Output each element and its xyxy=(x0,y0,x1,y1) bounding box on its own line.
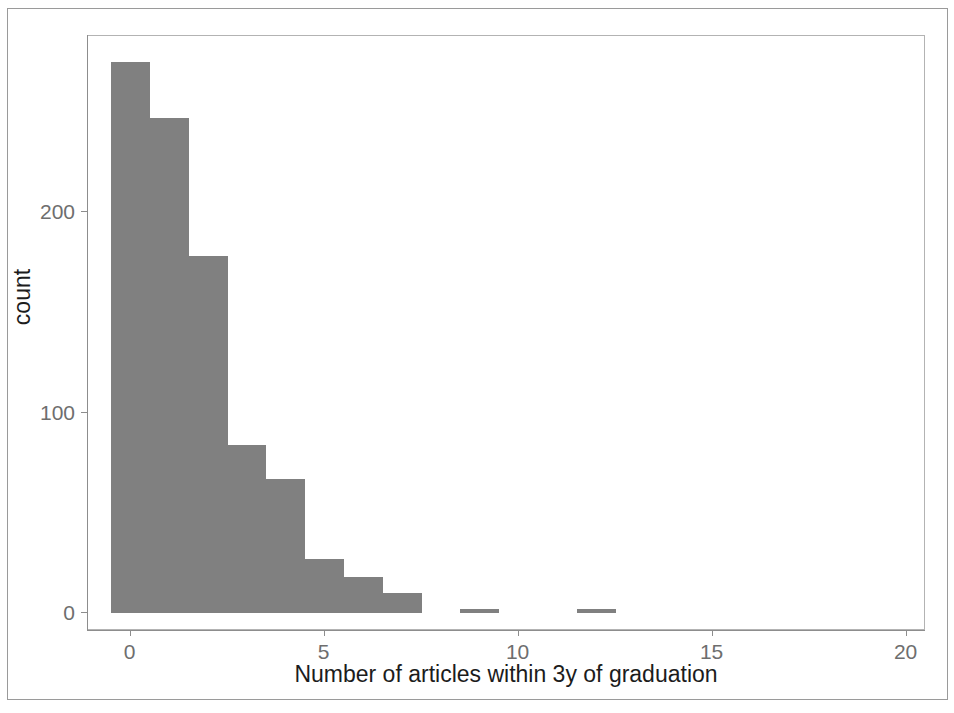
y-axis-line xyxy=(87,35,88,630)
histogram-bar xyxy=(577,609,616,613)
histogram-bar xyxy=(460,609,499,613)
y-tick-label: 100 xyxy=(40,401,75,422)
x-tick-mark xyxy=(130,630,131,636)
x-tick-label: 15 xyxy=(700,641,723,662)
x-axis-line xyxy=(87,630,925,631)
histogram-bar xyxy=(305,559,344,613)
y-tick-mark xyxy=(81,412,87,413)
plot-area xyxy=(88,36,924,629)
x-tick-mark xyxy=(324,630,325,636)
plot-panel xyxy=(87,35,925,630)
x-tick-label: 5 xyxy=(318,641,330,662)
figure-root: 05101520 0100200 Number of articles with… xyxy=(0,0,954,713)
y-axis-title: count xyxy=(9,269,35,325)
y-tick-label: 200 xyxy=(40,201,75,222)
histogram-bar xyxy=(111,62,150,613)
x-tick-label: 0 xyxy=(124,641,136,662)
x-axis-title: Number of articles within 3y of graduati… xyxy=(87,661,925,687)
y-tick-mark xyxy=(81,612,87,613)
histogram-bar xyxy=(266,479,305,613)
x-tick-mark xyxy=(518,630,519,636)
histogram-bar xyxy=(344,577,383,613)
x-tick-label: 20 xyxy=(894,641,917,662)
x-tick-label: 10 xyxy=(506,641,529,662)
y-tick-label: 0 xyxy=(63,601,75,622)
histogram-bar xyxy=(150,118,189,613)
histogram-bar xyxy=(383,593,422,613)
x-tick-mark xyxy=(712,630,713,636)
histogram-bar xyxy=(189,256,228,613)
histogram-bar xyxy=(228,445,267,613)
x-tick-mark xyxy=(906,630,907,636)
y-tick-mark xyxy=(81,211,87,212)
